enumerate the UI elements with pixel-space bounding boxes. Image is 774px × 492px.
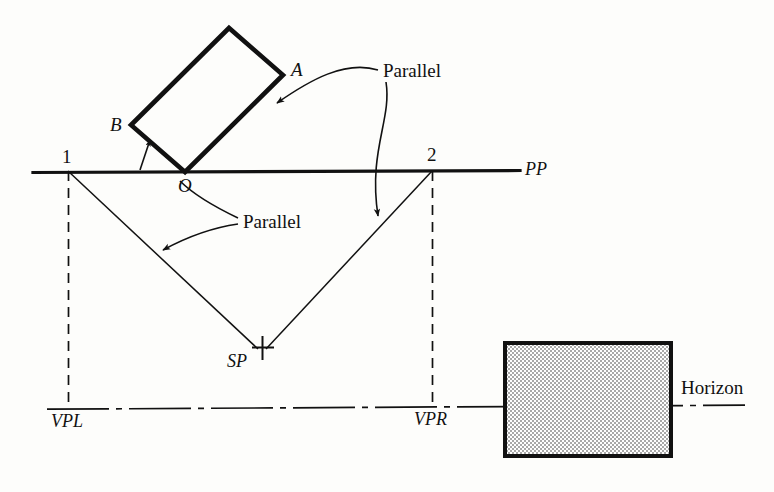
label-parallel-lower: Parallel	[243, 212, 301, 231]
label-point-o: O	[178, 176, 192, 195]
label-horizon: Horizon	[681, 378, 743, 397]
picture-plane-line	[33, 171, 520, 173]
figure-canvas: A B O 1 2 PP SP VPL VPR Parallel Paralle…	[0, 0, 774, 492]
label-point-b: B	[110, 115, 122, 134]
label-vanishing-point-right: VPR	[414, 410, 447, 428]
sight-line-right	[266, 171, 432, 349]
label-picture-plane: PP	[525, 160, 547, 178]
label-measure-point-1: 1	[62, 147, 72, 166]
leader-arrow-bo-edge	[140, 140, 150, 170]
label-measure-point-2: 2	[427, 145, 437, 164]
picture-view-rectangle	[505, 343, 671, 456]
label-vanishing-point-left: VPL	[51, 412, 83, 430]
leader-parallel-upper-to-line-2sp	[376, 82, 387, 216]
sight-line-left	[68, 171, 258, 349]
label-parallel-upper: Parallel	[383, 61, 441, 80]
label-point-a: A	[291, 60, 303, 79]
leader-parallel-lower-to-line-1sp	[163, 224, 238, 250]
object-plan-rectangle	[131, 28, 283, 172]
label-station-point: SP	[227, 352, 247, 370]
